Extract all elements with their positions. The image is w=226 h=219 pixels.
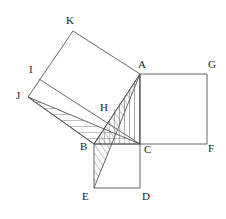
label-point-K: K [66, 14, 74, 26]
label-point-E: E [82, 190, 89, 202]
label-point-D: D [142, 190, 150, 202]
label-point-B: B [80, 140, 87, 152]
label-point-G: G [208, 58, 216, 70]
label-point-C: C [144, 143, 151, 155]
square-on-AC [140, 74, 207, 144]
label-point-J: J [16, 89, 21, 101]
label-point-H: H [100, 101, 108, 113]
label-point-F: F [208, 142, 214, 154]
label-point-A: A [138, 58, 146, 70]
geometry-svg: ABCDEFGHIJK [0, 0, 226, 219]
geometry-figure: ABCDEFGHIJK [0, 0, 226, 219]
hatched-fills [28, 74, 140, 188]
label-point-I: I [29, 63, 33, 75]
